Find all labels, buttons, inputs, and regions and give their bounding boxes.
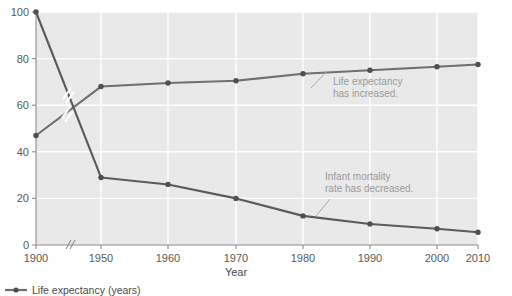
life-expectancy-annotation-line1: Life expectancy: [333, 76, 403, 87]
x-tick-label: 1980: [291, 252, 315, 264]
x-tick-label: 1950: [89, 252, 113, 264]
data-point-marker: [475, 229, 480, 234]
x-tick-label: 1960: [156, 252, 180, 264]
data-point-marker: [475, 62, 480, 67]
x-tick-label: 1990: [358, 252, 382, 264]
x-axis-title: Year: [225, 266, 248, 278]
y-tick-label: 40: [17, 146, 29, 158]
legend-swatch-marker: [13, 287, 18, 292]
x-tick-label: 2000: [425, 252, 449, 264]
legend: Life expectancy (years): [5, 284, 141, 296]
data-point-marker: [300, 213, 305, 218]
y-tick-label: 100: [11, 6, 29, 18]
data-point-marker: [233, 196, 238, 201]
data-point-marker: [367, 221, 372, 226]
data-point-marker: [367, 68, 372, 73]
y-tick-label: 20: [17, 192, 29, 204]
y-tick-label: 60: [17, 99, 29, 111]
data-point-marker: [434, 226, 439, 231]
y-tick-label: 0: [23, 239, 29, 251]
data-point-marker: [98, 84, 103, 89]
data-point-marker: [434, 64, 439, 69]
x-tick-label: 1900: [24, 252, 48, 264]
infant-mortality-annotation-line1: Infant mortality: [325, 171, 391, 182]
data-point-marker: [98, 175, 103, 180]
data-point-marker: [165, 80, 170, 85]
legend-item-label: Life expectancy (years): [32, 284, 141, 296]
infant-mortality-annotation-line2: rate has decreased.: [325, 183, 413, 194]
plot-area-background: [36, 12, 478, 245]
data-point-marker: [233, 78, 238, 83]
data-point-marker: [165, 182, 170, 187]
x-axis-ticks: 19001950196019701980199020002010: [24, 245, 490, 264]
x-tick-label: 1970: [224, 252, 248, 264]
data-point-marker: [300, 71, 305, 76]
data-point-marker: [33, 9, 38, 14]
y-tick-label: 80: [17, 53, 29, 65]
x-tick-label: 2010: [466, 252, 490, 264]
life-expectancy-annotation-line2: has increased.: [333, 88, 398, 99]
y-axis-ticks: 020406080100: [11, 6, 36, 251]
line-chart: 020406080100 190019501960197019801990200…: [0, 0, 512, 296]
data-point-marker: [33, 133, 38, 138]
chart-container: 020406080100 190019501960197019801990200…: [0, 0, 512, 296]
